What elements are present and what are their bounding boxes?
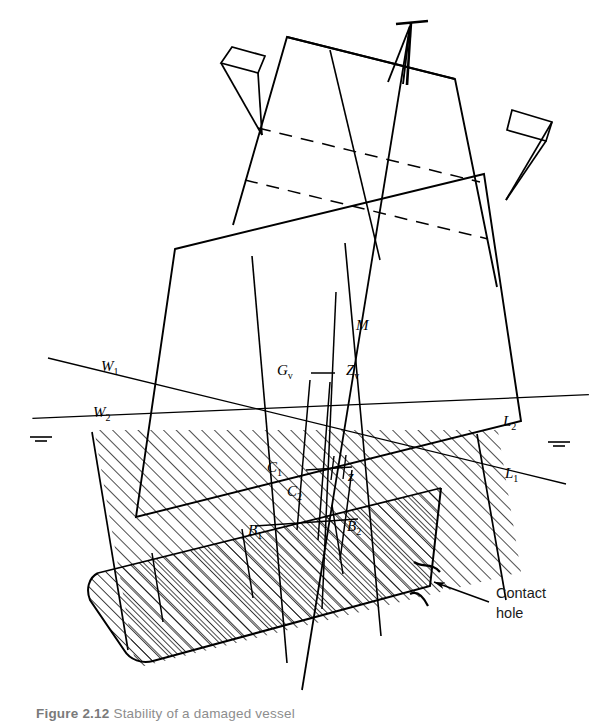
mast-group [388,21,428,85]
sponson-stbd-strut [506,122,552,200]
sponson-port-strut-2 [258,73,262,135]
tower-dashed-deck-upper [258,128,480,182]
label-metacentre: M [355,317,370,333]
label-l1-base: L [504,465,513,481]
sponson-port-outline [221,47,265,73]
svg-text:W2: W2 [93,404,111,423]
svg-text:z: z [347,468,354,484]
tower-outline [233,37,497,287]
svg-text:Gv: Gv [277,362,293,381]
tower-dashed-deck-lower [245,180,488,239]
water-level-symbol-starboard [548,442,570,446]
figure-root: M Gv Zv W1 W2 [0,0,595,724]
label-centre-of-gravity: Gv [277,362,293,381]
contact-hole-line-one: Contact [496,585,546,601]
caption-text: Stability of a damaged vessel [113,706,294,721]
sponson-starboard-group [506,110,552,200]
label-w1-sub: 1 [114,366,119,377]
label-waterline-w2: W2 [93,404,111,423]
label-zv-sub: v [354,370,359,381]
sponson-port-strut [221,63,262,135]
label-c2-sub: 2 [297,491,302,502]
label-c1-sub: 1 [277,467,282,478]
label-waterline-w1: W1 [101,358,119,377]
label-gv-sub: v [288,370,293,381]
label-l2-base: L [502,413,511,429]
label-b2-base: B [347,518,356,534]
sponson-stbd-outline [507,110,552,141]
svg-text:W1: W1 [101,358,119,377]
label-w2-sub: 2 [106,412,111,423]
label-z-base: z [347,468,354,484]
svg-text:L2: L2 [502,413,516,432]
tower-center-divider [330,50,380,260]
tower-top-edge [287,37,455,79]
label-l1-sub: 1 [513,473,518,484]
sponson-port-group [221,47,265,135]
contact-hole-line-two: hole [496,605,523,621]
label-metacentre-base: M [355,317,370,333]
label-waterline-l2: L2 [502,413,516,432]
caption-prefix: Figure [36,706,78,721]
label-gv-base: G [277,362,288,378]
sponson-stbd-strut-2 [506,141,546,200]
figure-caption: Figure 2.12 Stability of a damaged vesse… [0,706,595,724]
annotation-contact-hole: Contact hole [496,585,546,621]
mast-crossbar-icon [396,21,428,24]
water-level-symbol-port [30,437,52,441]
label-b2-sub: 2 [356,526,361,537]
ship-stability-diagram: M Gv Zv W1 W2 [0,0,595,724]
label-b1-base: B [248,522,257,538]
label-b1-sub: 1 [257,530,262,541]
caption-number: 2.12 [82,706,109,721]
upper-tower-group [233,37,497,287]
label-l2-sub: 2 [511,421,516,432]
label-shift-distance: z [347,468,354,484]
svg-text:M: M [355,317,370,333]
